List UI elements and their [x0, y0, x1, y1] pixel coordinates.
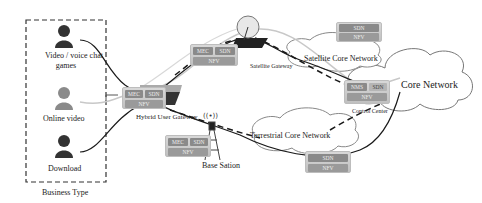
control-center-label: Control Center	[352, 108, 388, 114]
nfv-cell: NFV	[125, 100, 163, 108]
label-line: Video / voice chat	[45, 52, 87, 60]
sdn-cell: SDN	[369, 83, 387, 91]
base-station-box: MEC SDN NFV	[165, 135, 211, 157]
mec-cell: MEC	[168, 138, 188, 146]
nfv-cell: NFV	[168, 148, 208, 156]
person-icon	[55, 87, 73, 110]
hybrid-gateway-box: MEC SDN NFV	[122, 87, 166, 109]
core-network-label: Core Network	[401, 80, 458, 90]
terrestrial-core-label: Terrestrial Core Network	[250, 132, 330, 140]
satellite-core-box: SDN NFV	[336, 22, 382, 42]
sdn-cell: SDN	[339, 24, 379, 32]
business-label-online-video: Online video	[43, 115, 85, 123]
satellite-dish-icon	[232, 16, 268, 48]
satellite-gateway-box: MEC SDN NFV	[190, 44, 238, 66]
person-icon	[55, 25, 73, 48]
nfv-cell: NFV	[347, 93, 387, 101]
mec-cell: MEC	[193, 47, 213, 55]
sdn-cell: SDN	[215, 47, 235, 55]
base-station-label: Base Sation	[202, 162, 240, 170]
sdn-cell: SDN	[145, 90, 163, 98]
business-label-download: Download	[48, 165, 81, 173]
business-type-title: Business Type	[42, 189, 88, 197]
nfv-cell: NFV	[193, 57, 235, 65]
satellite-core-label: Satellite Core Network	[304, 55, 378, 63]
svg-text:((•)): ((•))	[203, 112, 218, 120]
person-icon	[55, 135, 73, 158]
nms-cell: NMS	[347, 83, 367, 91]
nfv-cell: NFV	[339, 33, 379, 41]
satellite-gateway-label: Satellite Gateway	[250, 63, 292, 69]
mec-cell: MEC	[125, 90, 143, 98]
sdn-cell: SDN	[190, 138, 208, 146]
label-line: games	[45, 62, 87, 70]
control-center-box: NMS SDN NFV	[344, 80, 390, 104]
business-label-video-chat: Video / voice chat games	[45, 52, 87, 70]
sdn-cell: SDN	[308, 154, 348, 162]
nfv-cell: NFV	[308, 164, 348, 172]
terrestrial-core-box: SDN NFV	[305, 151, 351, 173]
hybrid-gateway-label: Hybrid User Gateway	[136, 114, 197, 121]
